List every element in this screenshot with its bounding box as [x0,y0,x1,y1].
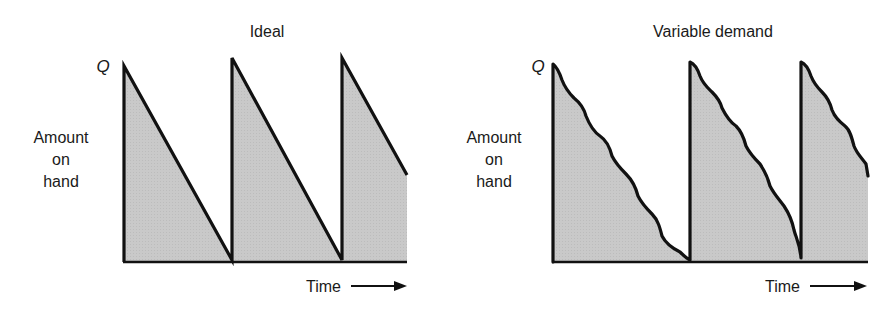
variable-demand-chart: Variable demand Q Amount on hand Time [466,23,868,295]
variable-time-arrow-icon [810,281,867,291]
variable-q-label: Q [531,57,544,76]
ideal-time-arrow-icon [351,281,407,291]
variable-y-axis-label: Amount on hand [466,129,522,190]
variable-chart-title: Variable demand [653,23,773,40]
ylabel-line-2: on [485,151,503,168]
ideal-chart-title: Ideal [250,23,285,40]
variable-x-axis-label: Time [765,278,800,295]
ylabel-line-3: hand [43,173,79,190]
figure-canvas: Ideal Q Amount on hand Time Variable dem… [0,0,893,319]
ideal-x-axis-label: Time [306,278,341,295]
ylabel-line-1: Amount [33,129,89,146]
ideal-y-axis-label: Amount on hand [33,129,89,190]
ylabel-line-3: hand [476,173,512,190]
ylabel-line-2: on [52,151,70,168]
ylabel-line-1: Amount [466,129,522,146]
ideal-chart: Ideal Q Amount on hand Time [33,23,407,295]
ideal-q-label: Q [96,57,109,76]
ideal-inventory-area [124,58,407,262]
